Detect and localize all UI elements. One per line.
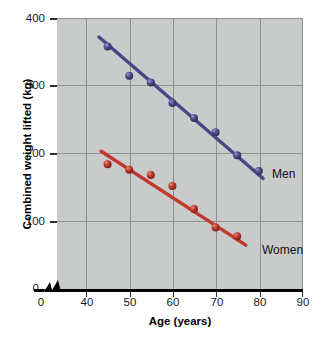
series-label-women: Women bbox=[262, 243, 303, 257]
datapoint bbox=[233, 151, 241, 159]
chart-figure: 400 300 200 100 0 0 40 50 60 70 80 90 Co… bbox=[0, 0, 321, 337]
series-label-men: Men bbox=[272, 167, 295, 181]
datapoint bbox=[190, 205, 198, 213]
datapoint bbox=[125, 72, 133, 80]
datapoint bbox=[168, 182, 176, 190]
datapoint bbox=[104, 160, 112, 168]
datapoint bbox=[212, 128, 220, 136]
datapoint bbox=[255, 167, 263, 175]
datapoint bbox=[212, 223, 220, 231]
datapoint bbox=[233, 232, 241, 240]
datapoint bbox=[168, 99, 176, 107]
trendline-women bbox=[101, 151, 246, 245]
datapoint bbox=[147, 79, 155, 87]
datapoint bbox=[125, 166, 133, 174]
datapoint bbox=[104, 43, 112, 51]
datapoint bbox=[190, 114, 198, 122]
datapoint bbox=[147, 171, 155, 179]
axis-break-icon bbox=[40, 278, 66, 298]
